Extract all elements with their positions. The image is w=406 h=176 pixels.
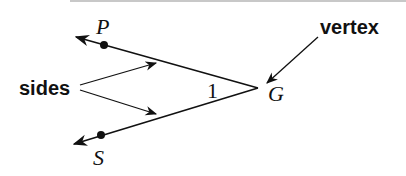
point-s-dot <box>97 131 105 139</box>
label-point-p: P <box>95 14 109 39</box>
label-vertex-g: G <box>268 81 284 106</box>
label-vertex: vertex <box>320 16 379 38</box>
vertex-arrow <box>267 37 318 83</box>
label-angle-1: 1 <box>207 78 218 103</box>
label-point-s: S <box>93 145 104 170</box>
point-p-dot <box>100 41 108 49</box>
sides-arrow-upper <box>80 63 156 85</box>
angle-diagram: P S G 1 sides vertex <box>0 0 406 176</box>
sides-arrow-lower <box>80 90 156 114</box>
label-sides: sides <box>19 77 70 99</box>
